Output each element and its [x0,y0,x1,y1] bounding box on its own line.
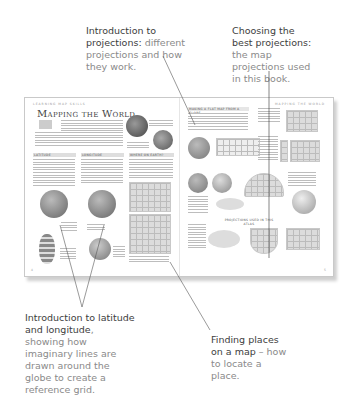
callout-leader-lines [0,0,351,381]
